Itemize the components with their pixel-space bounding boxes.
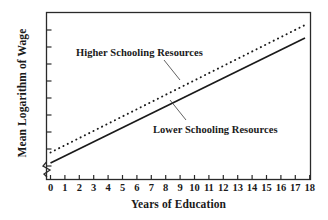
x-tick-label: 11 xyxy=(204,182,214,193)
x-axis-tick-labels: 0 1 2 3 4 5 6 7 8 9 10 11 12 13 14 15 16… xyxy=(0,182,328,196)
x-tick-label: 0 xyxy=(48,182,53,193)
x-tick-label: 9 xyxy=(177,182,182,193)
leader-line-lower xyxy=(170,100,186,120)
x-tick-label: 14 xyxy=(247,182,258,193)
x-tick-label: 7 xyxy=(149,182,154,193)
x-tick-label: 12 xyxy=(218,182,229,193)
series-annotation-lower-schooling-resources: Lower Schooling Resources xyxy=(153,124,278,135)
y-axis-ticks xyxy=(47,30,52,166)
x-tick-label: 15 xyxy=(261,182,272,193)
x-tick-label: 16 xyxy=(276,182,287,193)
x-tick-label: 10 xyxy=(189,182,200,193)
x-tick-label: 17 xyxy=(290,182,301,193)
x-tick-label: 3 xyxy=(91,182,96,193)
x-tick-label: 13 xyxy=(232,182,243,193)
x-tick-label: 2 xyxy=(77,182,82,193)
x-axis-title: Years of Education xyxy=(46,198,311,210)
x-tick-label: 8 xyxy=(163,182,168,193)
x-tick-label: 1 xyxy=(62,182,67,193)
x-tick-label: 5 xyxy=(120,182,125,193)
x-tick-label: 6 xyxy=(134,182,139,193)
plot-frame xyxy=(47,13,311,180)
leader-line-higher xyxy=(164,60,180,80)
chart-figure: Mean Logarithm of Wage Years of Educatio… xyxy=(0,0,328,220)
y-axis-title: Mean Logarithm of Wage xyxy=(16,8,28,178)
x-tick-label: 4 xyxy=(105,182,110,193)
series-annotation-higher-schooling-resources: Higher Schooling Resources xyxy=(76,47,203,58)
x-axis-ticks xyxy=(51,175,310,180)
x-tick-label: 18 xyxy=(304,182,315,193)
